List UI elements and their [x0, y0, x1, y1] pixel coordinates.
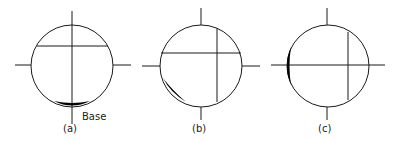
- panel-b-label: (b): [192, 123, 206, 134]
- panel-a-label: (a): [63, 123, 77, 134]
- panel-c-label: (c): [318, 123, 331, 134]
- panel-b-circle: [160, 25, 242, 107]
- panel-c: [271, 8, 385, 120]
- panel-a-base-label: Base: [82, 111, 106, 122]
- panel-a: [15, 11, 131, 124]
- diagram-canvas: Base (a) (b) (c): [0, 0, 398, 142]
- panel-b-shaded-crescent: [163, 78, 186, 102]
- panel-b: [142, 8, 260, 120]
- panel-c-circle: [287, 25, 369, 107]
- panel-c-shaded-crescent: [287, 47, 291, 85]
